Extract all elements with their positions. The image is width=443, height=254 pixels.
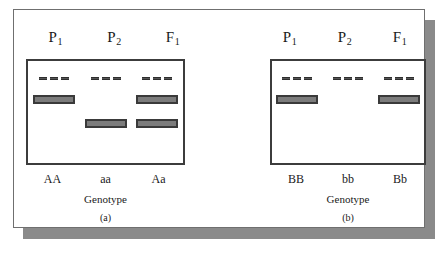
well-dash xyxy=(355,77,363,80)
dna-band xyxy=(33,95,75,104)
well-dash xyxy=(39,77,47,80)
gel-lane-aa-lower xyxy=(80,61,132,163)
lane-header-p2-subscript: 2 xyxy=(347,36,352,47)
lane-header-f1-symbol: F xyxy=(166,29,175,45)
lane-header-p2-symbol: P xyxy=(338,29,347,45)
figure-frame: P1 P2 F1 xyxy=(13,9,425,228)
lane-header-p2: P2 xyxy=(317,26,372,48)
lane-header-f1-symbol: F xyxy=(393,29,402,45)
panel-a-gel-box xyxy=(26,59,185,165)
well-dash xyxy=(61,77,69,80)
well-dash xyxy=(153,77,161,80)
lane-header-p2-subscript: 2 xyxy=(116,36,121,47)
panel-b-axis-title: Genotype xyxy=(270,191,426,207)
panel-a-axis-title: Genotype xyxy=(26,191,185,207)
gel-lane-aa xyxy=(28,61,80,163)
dna-band xyxy=(276,95,318,104)
gel-lane-bb-recessive xyxy=(323,61,374,163)
well-dash xyxy=(164,77,172,80)
well-marker xyxy=(333,77,363,80)
lane-header-p1-subscript: 1 xyxy=(58,36,63,47)
lane-header-p1-subscript: 1 xyxy=(292,36,297,47)
dna-band xyxy=(136,119,178,128)
well-dash xyxy=(406,77,414,80)
well-dash xyxy=(333,77,341,80)
well-marker xyxy=(282,77,312,80)
genotype-label: AA xyxy=(26,170,79,188)
panel-a: P1 P2 F1 xyxy=(14,10,220,229)
gel-lane-bb-dominant xyxy=(272,61,323,163)
well-marker xyxy=(91,77,121,80)
panel-a-lanes xyxy=(28,61,183,163)
genotype-label: aa xyxy=(79,170,132,188)
well-dash xyxy=(304,77,312,80)
lane-header-p1: P1 xyxy=(26,26,85,48)
lane-header-f1: F1 xyxy=(143,26,202,48)
lane-header-f1: F1 xyxy=(372,26,427,48)
genotype-label: bb xyxy=(322,170,374,188)
well-dash xyxy=(91,77,99,80)
well-dash xyxy=(344,77,352,80)
lane-header-p1-symbol: P xyxy=(48,29,57,45)
well-marker xyxy=(142,77,172,80)
well-marker xyxy=(384,77,414,80)
gel-electrophoresis-figure: P1 P2 F1 xyxy=(0,0,443,254)
lane-header-p1: P1 xyxy=(262,26,317,48)
lane-header-f1-subscript: 1 xyxy=(175,36,180,47)
well-dash xyxy=(142,77,150,80)
panel-b: P1 P2 F1 xyxy=(220,10,426,229)
genotype-label: BB xyxy=(270,170,322,188)
panel-b-genotype-row: BB bb Bb xyxy=(270,170,426,188)
well-dash xyxy=(384,77,392,80)
lane-header-p1-symbol: P xyxy=(283,29,292,45)
panel-b-lane-headers: P1 P2 F1 xyxy=(262,26,427,48)
dna-band xyxy=(378,95,420,104)
well-dash xyxy=(50,77,58,80)
dna-band xyxy=(136,95,178,104)
panel-b-caption: (b) xyxy=(270,210,426,225)
lane-header-p2-symbol: P xyxy=(107,29,116,45)
well-dash xyxy=(395,77,403,80)
genotype-label: Aa xyxy=(132,170,185,188)
well-dash xyxy=(282,77,290,80)
dna-band xyxy=(85,119,127,128)
gel-lane-bb-heterozygote xyxy=(373,61,424,163)
genotype-label: Bb xyxy=(374,170,426,188)
lane-header-p2: P2 xyxy=(85,26,144,48)
panel-b-gel-box xyxy=(270,59,426,165)
panel-a-caption: (a) xyxy=(26,210,185,225)
lane-header-f1-subscript: 1 xyxy=(402,36,407,47)
panel-b-lanes xyxy=(272,61,424,163)
well-dash xyxy=(113,77,121,80)
well-marker xyxy=(39,77,69,80)
well-dash xyxy=(102,77,110,80)
panel-a-genotype-row: AA aa Aa xyxy=(26,170,185,188)
gel-lane-heterozygote xyxy=(131,61,183,163)
panel-a-lane-headers: P1 P2 F1 xyxy=(26,26,202,48)
well-dash xyxy=(293,77,301,80)
